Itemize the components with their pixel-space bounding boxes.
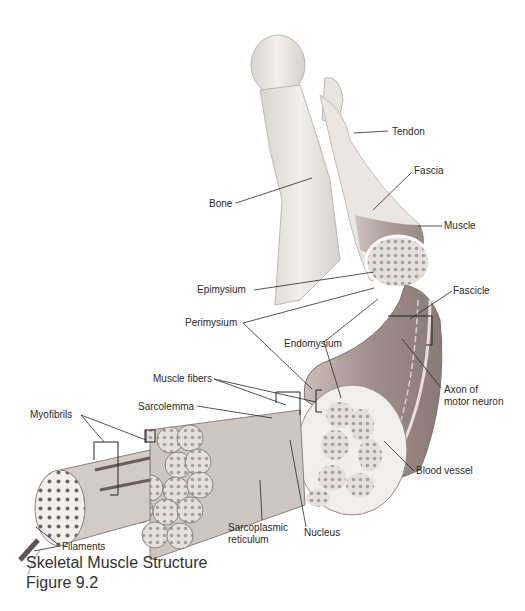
label-blood-vessel: Blood vessel [416,465,473,477]
label-axon-line1: Axon of [444,384,478,396]
label-endomysium: Endomysium [284,338,342,350]
label-sarcoplasmic-line1: Sarcoplasmic [228,522,288,534]
muscle-illustration [0,0,525,611]
label-axon-line2: motor neuron [444,396,503,408]
cross-section [297,385,407,515]
label-muscle: Muscle [444,220,476,232]
label-perimysium: Perimysium [185,317,237,329]
label-fascicle: Fascicle [453,285,490,297]
fiber-bundle [127,410,305,560]
label-epimysium: Epimysium [197,284,246,296]
label-fascia: Fascia [414,165,443,177]
label-nucleus: Nucleus [304,527,340,539]
figure-title: Skeletal Muscle Structure [26,553,207,573]
figure-number: Figure 9.2 [26,573,98,593]
label-filaments: Filaments [62,541,105,553]
label-myofibrils: Myofibrils [30,409,72,421]
label-bone: Bone [209,198,232,210]
diagram-stage: Tendon Fascia Bone Muscle Epimysium Fasc… [0,0,525,611]
bone-shape [251,35,343,305]
label-sarcolemma: Sarcolemma [138,401,194,413]
label-muscle-fibers: Muscle fibers [153,373,212,385]
label-sarcoplasmic-line2: reticulum [228,534,269,546]
label-tendon: Tendon [392,126,425,138]
